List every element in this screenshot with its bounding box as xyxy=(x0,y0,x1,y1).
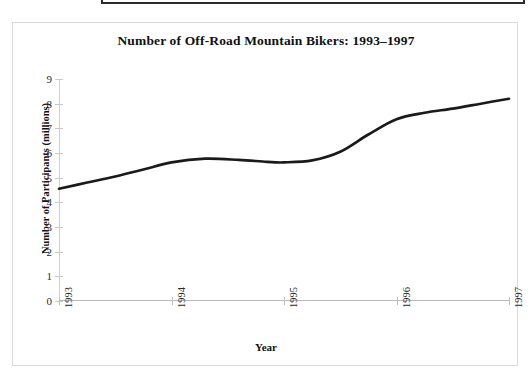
plot-area: 0123456789 19931994199519961997 xyxy=(59,79,509,301)
x-axis-title: Year xyxy=(13,341,519,353)
y-tick-label: 0 xyxy=(47,295,53,307)
y-tick-label: 4 xyxy=(47,196,53,208)
y-tick-label: 6 xyxy=(47,147,53,159)
y-tick-label: 7 xyxy=(47,122,53,134)
y-tick-label: 5 xyxy=(47,172,53,184)
y-tick-label: 9 xyxy=(47,73,53,85)
y-tick-label: 3 xyxy=(47,221,53,233)
x-tick xyxy=(509,297,510,305)
y-tick-label: 1 xyxy=(47,270,53,282)
y-tick-label: 2 xyxy=(47,246,53,258)
x-tick-label: 1997 xyxy=(513,287,524,308)
y-tick-label: 8 xyxy=(47,98,53,110)
line-series-svg xyxy=(59,79,509,301)
clipped-box-above-figure xyxy=(101,0,525,4)
line-series-path xyxy=(59,99,509,189)
chart-title: Number of Off-Road Mountain Bikers: 1993… xyxy=(13,33,519,49)
figure-frame: Number of Off-Road Mountain Bikers: 1993… xyxy=(12,22,518,366)
